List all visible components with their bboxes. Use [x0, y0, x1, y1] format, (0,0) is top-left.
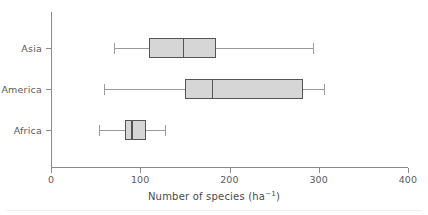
median-africa [131, 120, 132, 140]
whisker-cap-upper-america [324, 84, 325, 95]
y-tick-africa [46, 130, 52, 131]
y-tick-label-asia: Asia [21, 43, 42, 54]
bottom-rule [6, 210, 422, 211]
median-america [212, 79, 213, 99]
whisker-cap-upper-asia [313, 43, 314, 54]
y-tick-label-africa: Africa [14, 125, 42, 136]
x-tick-3 [319, 168, 320, 173]
y-tick-america [46, 89, 52, 90]
whisker-cap-lower-asia [114, 43, 115, 54]
whisker-upper-america [303, 89, 324, 90]
y-axis-line [51, 12, 52, 168]
plot-area: 0 100 200 300 400 Asia America Africa [0, 0, 428, 215]
x-tick-label-2: 200 [210, 174, 250, 185]
x-axis-label-exponent: −1 [265, 190, 276, 198]
x-tick-label-0: 0 [31, 174, 71, 185]
x-axis-label: Number of species (ha−1) [0, 190, 428, 202]
x-tick-1 [140, 168, 141, 173]
box-africa [125, 120, 146, 140]
box-america [185, 79, 303, 99]
whisker-lower-america [104, 89, 185, 90]
y-tick-asia [46, 48, 52, 49]
whisker-cap-lower-america [104, 84, 105, 95]
x-axis-label-main: Number of species (ha [148, 191, 265, 202]
y-tick-label-america: America [1, 84, 42, 95]
whisker-upper-asia [216, 48, 313, 49]
box-plot-figure: 0 100 200 300 400 Asia America Africa [0, 0, 428, 215]
whisker-lower-asia [114, 48, 149, 49]
x-tick-label-4: 400 [388, 174, 428, 185]
whisker-cap-lower-africa [99, 125, 100, 136]
x-axis-label-close: ) [276, 191, 280, 202]
x-tick-label-3: 300 [299, 174, 339, 185]
x-tick-4 [408, 168, 409, 173]
x-tick-2 [230, 168, 231, 173]
x-tick-0 [51, 168, 52, 173]
whisker-upper-africa [146, 130, 166, 131]
whisker-cap-upper-africa [165, 125, 166, 136]
whisker-lower-africa [99, 130, 125, 131]
median-asia [183, 38, 184, 58]
x-tick-label-1: 100 [120, 174, 160, 185]
